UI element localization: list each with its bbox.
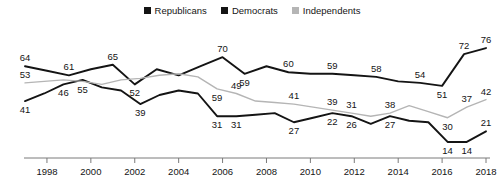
line-chart-figure: RepublicansDemocratsIndependents 6461655… xyxy=(0,0,504,190)
data-label-republicans-2006: 70 xyxy=(217,43,228,54)
data-label-republicans-1997: 64 xyxy=(20,52,31,63)
data-label-independents-2011: 39 xyxy=(327,96,338,107)
data-label-democrats-1997: 41 xyxy=(20,104,31,115)
data-label-democrats-1999: 46 xyxy=(58,87,69,98)
point-label-layer: 6461655270596059585451727641463931312722… xyxy=(20,34,492,156)
data-label-republicans-2015: 54 xyxy=(415,69,426,80)
series-layer xyxy=(25,48,486,142)
series-line-democrats xyxy=(25,80,486,142)
x-axis-tick-label-2002: 2002 xyxy=(124,166,145,177)
data-label-democrats-2016: 14 xyxy=(442,145,453,156)
data-label-independents-2018: 42 xyxy=(481,86,492,97)
x-axis-tick-label-2018: 2018 xyxy=(475,166,496,177)
data-label-independents-1997: 53 xyxy=(20,69,31,80)
data-label-independents-2017: 37 xyxy=(462,93,473,104)
data-label-independents-2009: 41 xyxy=(289,90,300,101)
data-label-republicans-2018: 76 xyxy=(481,34,492,45)
data-label-democrats-2017: 14 xyxy=(462,145,473,156)
series-line-republicans xyxy=(25,48,486,86)
data-label-republicans-2017: 72 xyxy=(459,40,470,51)
data-label-democrats-2018: 21 xyxy=(481,117,492,128)
x-axis: 1998200020022004200620082010201220142016… xyxy=(24,158,497,177)
data-label-democrats-2007: 31 xyxy=(231,119,242,130)
chart-plot-area: 6461655270596059585451727641463931312722… xyxy=(0,0,504,190)
series-line-independents xyxy=(25,74,486,118)
data-label-independents-2016: 30 xyxy=(442,121,453,132)
x-axis-tick-label-2006: 2006 xyxy=(212,166,233,177)
x-axis-tick-label-2012: 2012 xyxy=(344,166,365,177)
data-label-democrats-2011: 22 xyxy=(327,116,338,127)
data-label-democrats-2009: 27 xyxy=(289,125,300,136)
data-label-independents-2012: 31 xyxy=(346,99,357,110)
data-label-republicans-1999: 61 xyxy=(64,61,75,72)
x-axis-tick-label-1998: 1998 xyxy=(36,166,57,177)
data-label-democrats-2006: 31 xyxy=(212,119,223,130)
data-label-republicans-2009: 60 xyxy=(283,58,294,69)
data-label-democrats-2014: 27 xyxy=(385,119,396,130)
data-label-republicans-2011: 59 xyxy=(327,60,338,71)
x-axis-tick-label-2010: 2010 xyxy=(300,166,321,177)
data-label-democrats-2012: 26 xyxy=(346,119,357,130)
data-label-republicans-2002: 52 xyxy=(130,87,141,98)
data-label-republicans-2013: 58 xyxy=(371,63,382,74)
data-label-democrats-2002: 39 xyxy=(135,107,146,118)
data-label-republicans-2016: 51 xyxy=(437,89,448,100)
x-axis-tick-label-2000: 2000 xyxy=(80,166,101,177)
x-axis-tick-label-2016: 2016 xyxy=(432,166,453,177)
x-axis-tick-label-2004: 2004 xyxy=(168,166,189,177)
data-label-independents-2000: 55 xyxy=(77,84,88,95)
x-axis-tick-label-2014: 2014 xyxy=(388,166,409,177)
data-label-independents-2014: 38 xyxy=(385,99,396,110)
data-label-independents-2006: 59 xyxy=(212,92,223,103)
data-label-republicans-2001: 65 xyxy=(108,51,119,62)
data-label-independents-2007: 49 xyxy=(231,80,242,91)
x-axis-tick-label-2008: 2008 xyxy=(256,166,277,177)
